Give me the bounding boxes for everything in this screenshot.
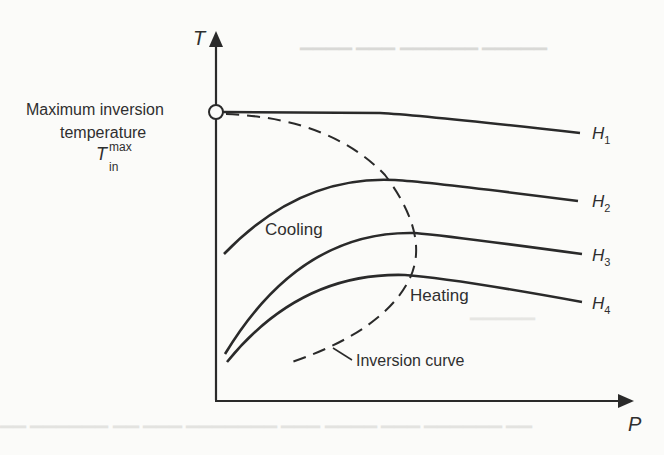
symbol-sub: in (109, 161, 132, 173)
curve-H2 (224, 180, 578, 254)
max-inversion-point (209, 105, 223, 119)
x-axis-label: P (628, 413, 641, 436)
curve-label-H3: H3 (592, 246, 610, 266)
symbol-script: max in (109, 141, 132, 173)
curve-H1 (223, 112, 580, 133)
y-axis-arrow-icon (209, 31, 223, 47)
max-inversion-symbol: T max in (96, 144, 107, 165)
curve-label-H1: H1 (592, 124, 610, 144)
max-inversion-label-line1: Maximum inversion (26, 101, 164, 119)
curve-label-H2: H2 (592, 192, 610, 212)
inversion-curve-label: Inversion curve (356, 352, 465, 370)
x-axis-arrow-icon (618, 394, 634, 408)
symbol-base: T (96, 144, 107, 164)
heating-label: Heating (410, 286, 469, 306)
y-axis-label: T (193, 27, 205, 50)
curve-label-H4: H4 (592, 294, 610, 314)
inversion-label-leader (333, 348, 352, 360)
diagram-canvas (0, 0, 664, 455)
symbol-sup: max (109, 141, 132, 153)
max-inversion-label-line2: temperature (60, 124, 146, 142)
cooling-label: Cooling (265, 220, 323, 240)
